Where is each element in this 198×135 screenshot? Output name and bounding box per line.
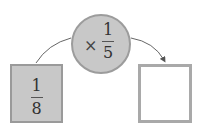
input-box: 1 8: [10, 64, 63, 123]
input-numerator: 1: [31, 78, 41, 94]
input-denominator: 8: [31, 101, 41, 117]
left-connector-curve: [36, 38, 71, 63]
fraction-bar: [102, 41, 114, 42]
operation-fraction: 1 5: [99, 22, 117, 61]
operation-circle: × 1 5: [71, 14, 131, 74]
operation-numerator: 1: [103, 22, 113, 38]
right-connector-arrow: [131, 38, 164, 60]
fraction-bar: [31, 97, 43, 98]
answer-box[interactable]: [138, 64, 192, 123]
input-fraction: 1 8: [12, 78, 61, 117]
multiply-sign: ×: [84, 36, 97, 55]
operation-denominator: 5: [103, 45, 113, 61]
